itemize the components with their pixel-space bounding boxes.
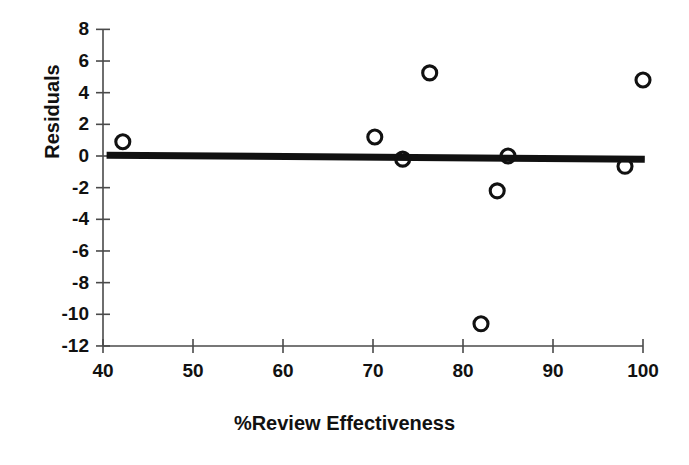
- y-tick-label: -8: [0, 272, 89, 294]
- y-tick-label: -4: [0, 208, 89, 230]
- y-axis-title: Residuals: [41, 22, 64, 202]
- y-tick-label: 8: [0, 18, 89, 40]
- y-tick-label: 4: [0, 82, 89, 104]
- plot-canvas: [0, 0, 689, 465]
- x-tick-label: 50: [182, 360, 203, 382]
- y-tick-label: 2: [0, 113, 89, 135]
- y-tick-label: 6: [0, 50, 89, 72]
- y-tick-label: -12: [0, 335, 89, 357]
- data-point-marker[interactable]: [423, 66, 437, 80]
- x-axis-title: %Review Effectiveness: [0, 412, 689, 435]
- y-tick-label: -10: [0, 303, 89, 325]
- data-point-marker[interactable]: [490, 184, 504, 198]
- x-tick-label: 80: [452, 360, 473, 382]
- data-point-marker[interactable]: [116, 135, 130, 149]
- data-point-marker[interactable]: [368, 130, 382, 144]
- x-tick-label: 100: [627, 360, 659, 382]
- regression-line: [107, 155, 645, 159]
- x-tick-label: 40: [92, 360, 113, 382]
- x-tick-label: 90: [542, 360, 563, 382]
- x-tick-label: 70: [362, 360, 383, 382]
- y-tick-label: -6: [0, 240, 89, 262]
- x-tick-label: 60: [272, 360, 293, 382]
- y-tick-label: 0: [0, 145, 89, 167]
- y-tick-label: -2: [0, 177, 89, 199]
- data-point-marker[interactable]: [474, 317, 488, 331]
- data-point-marker[interactable]: [636, 73, 650, 87]
- residual-scatter-chart: Residuals %Review Effectiveness 86420-2-…: [0, 0, 689, 465]
